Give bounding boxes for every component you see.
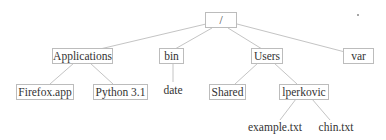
edge-lperkovic-example bbox=[280, 99, 296, 120]
edge-root-applications bbox=[100, 24, 206, 49]
node-chin: chin.txt bbox=[316, 120, 356, 136]
edge-applications-firefox bbox=[50, 63, 74, 84]
edge-users-shared bbox=[235, 63, 258, 84]
node-example: example.txt bbox=[246, 120, 304, 136]
tree-edges bbox=[0, 0, 386, 140]
node-firefox: Firefox.app bbox=[16, 84, 74, 100]
node-bin: bin bbox=[159, 48, 184, 64]
node-var: var bbox=[343, 48, 374, 64]
edge-root-bin bbox=[175, 28, 212, 49]
edge-applications-python bbox=[90, 63, 113, 84]
edge-lperkovic-chin bbox=[312, 99, 330, 120]
node-date: date bbox=[158, 83, 188, 99]
edge-users-lperkovic bbox=[274, 63, 297, 84]
node-applications: Applications bbox=[52, 48, 113, 64]
node-shared: Shared bbox=[209, 84, 246, 100]
stray-dot bbox=[357, 14, 359, 16]
node-python: Python 3.1 bbox=[93, 84, 148, 100]
node-root: / bbox=[205, 12, 237, 28]
node-users: Users bbox=[251, 48, 283, 64]
edge-root-users bbox=[228, 28, 262, 49]
node-lperkovic: lperkovic bbox=[279, 84, 329, 100]
